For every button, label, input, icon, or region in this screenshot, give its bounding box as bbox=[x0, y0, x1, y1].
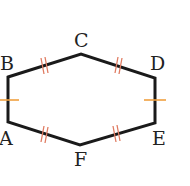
hexagon-diagram: B C D A E F bbox=[0, 0, 190, 186]
vertex-label-b: B bbox=[0, 52, 14, 74]
vertex-label-e: E bbox=[152, 127, 166, 149]
vertex-label-d: D bbox=[150, 52, 165, 74]
vertex-label-c: C bbox=[74, 29, 89, 51]
vertex-label-a: A bbox=[0, 127, 13, 149]
hexagon-outline bbox=[8, 54, 155, 145]
vertex-label-f: F bbox=[74, 148, 87, 170]
